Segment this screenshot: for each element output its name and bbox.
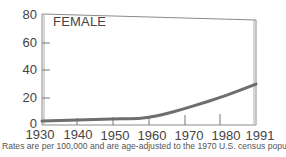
female-rate-line: [42, 84, 256, 121]
chart-title: FEMALE: [53, 14, 106, 29]
y-tick-label-40: 40: [9, 62, 37, 77]
y-axis-ticks: [42, 43, 50, 98]
y-tick-label-20: 20: [9, 90, 37, 105]
y-tick-label-60: 60: [9, 35, 37, 50]
y-tick-label-80: 80: [9, 7, 37, 22]
x-tick-label-1930: 1930: [22, 127, 58, 142]
line-chart: FEMALE 80 60 40 20 0 1930 1940 1950 1960…: [0, 0, 286, 157]
footnote: Rates are per 100,000 and are age-adjust…: [2, 141, 286, 151]
plot-frame: [42, 14, 256, 125]
x-tick-label-1940: 1940: [60, 127, 96, 142]
